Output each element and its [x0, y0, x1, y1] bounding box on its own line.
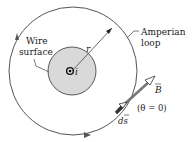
current-dot [69, 70, 72, 73]
amperian-label-line1: Amperian [140, 27, 186, 37]
angle-note: (θ = 0) [137, 103, 167, 113]
radius-label: r [86, 44, 91, 54]
wire-surface-label-line1: Wire [26, 36, 48, 46]
amperian-leader [127, 31, 139, 38]
ds-label: ds [118, 116, 128, 126]
amperian-label-line2: loop [141, 38, 161, 48]
wire-surface-leader [34, 59, 49, 72]
b-vector-label: B [154, 85, 162, 95]
amperian-loop-diagram: i r Wire surface Amperian loop B ds (θ =… [0, 0, 195, 142]
wire-surface-label-line2: surface [19, 47, 53, 57]
loop-direction-arrow-left [15, 33, 19, 40]
current-label: i [75, 67, 78, 77]
